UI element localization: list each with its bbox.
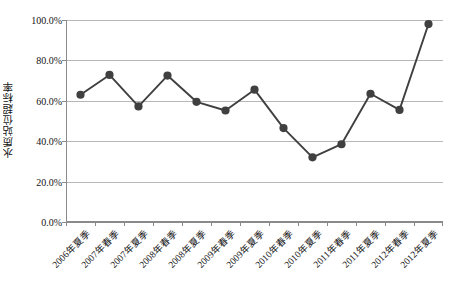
data-point bbox=[395, 106, 403, 114]
plot-area bbox=[66, 20, 443, 222]
data-series-line bbox=[66, 20, 443, 222]
y-axis-tick-label: 20.0% bbox=[14, 176, 62, 187]
x-axis-tick-labels: 2006年夏季2007年春季2007年夏季2008年春季2008年夏季2009年… bbox=[66, 222, 443, 295]
y-axis-tick-label: 60.0% bbox=[14, 95, 62, 106]
line-chart: 水质站位超标率 0.0%20.0%40.0%60.0%80.0%100.0% 2… bbox=[0, 0, 457, 295]
data-point bbox=[192, 98, 200, 106]
y-axis-tick-label: 0.0% bbox=[14, 217, 62, 228]
data-point bbox=[134, 102, 142, 110]
y-axis-tick-labels: 0.0%20.0%40.0%60.0%80.0%100.0% bbox=[12, 0, 62, 295]
y-axis-tick-label: 100.0% bbox=[14, 15, 62, 26]
data-point bbox=[366, 90, 374, 98]
data-point bbox=[279, 124, 287, 132]
series-markers bbox=[76, 20, 432, 162]
y-axis-tick-label: 40.0% bbox=[14, 136, 62, 147]
data-point bbox=[163, 71, 171, 79]
data-point bbox=[424, 20, 432, 28]
data-point bbox=[105, 71, 113, 79]
y-axis-tick-label: 80.0% bbox=[14, 55, 62, 66]
data-point bbox=[76, 91, 84, 99]
data-point bbox=[221, 106, 229, 114]
data-point bbox=[308, 153, 316, 161]
data-point bbox=[250, 86, 258, 94]
data-point bbox=[337, 140, 345, 148]
